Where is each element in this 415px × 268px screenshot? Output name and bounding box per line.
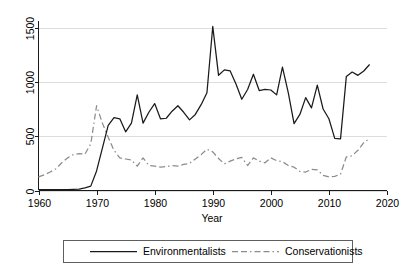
y-tick-label-1500: 1500 (24, 17, 36, 41)
x-tick-label-1990: 1990 (202, 197, 226, 209)
gridlines (39, 29, 388, 192)
series-line-conservationists (39, 106, 370, 177)
y-tick-label-500: 500 (24, 128, 36, 146)
legend-label-environmentalists: Environmentalists (143, 245, 226, 257)
y-tick-label-0: 0 (24, 188, 36, 194)
y-tick-marks (35, 29, 39, 192)
x-tick-label-1970: 1970 (86, 197, 110, 209)
legend: Environmentalists Conservationists (64, 241, 363, 263)
y-tick-labels: 050010001500 (24, 17, 36, 195)
x-tick-labels: 1960197019801990200020102020 (28, 197, 400, 209)
x-tick-label-1980: 1980 (144, 197, 168, 209)
x-tick-label-2010: 2010 (318, 197, 342, 209)
x-axis-title: Year (201, 212, 223, 224)
legend-label-conservationists: Conservationists (285, 245, 363, 257)
line-chart-svg: 050010001500 196019701980199020002010202… (0, 0, 415, 268)
y-axis (35, 21, 39, 192)
data-series-group (39, 26, 370, 189)
chart-figure: 050010001500 196019701980199020002010202… (0, 0, 415, 268)
x-tick-label-2020: 2020 (376, 197, 400, 209)
x-tick-label-1960: 1960 (28, 197, 52, 209)
x-tick-label-2000: 2000 (260, 197, 284, 209)
series-line-environmentalists (39, 26, 370, 189)
y-tick-label-1000: 1000 (24, 71, 36, 95)
